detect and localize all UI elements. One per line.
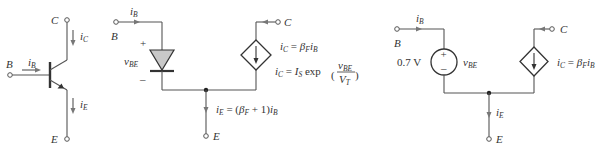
- emitter-terminal: [487, 137, 492, 142]
- ic-arrow-icon: [539, 27, 545, 32]
- collector-terminal: [65, 18, 70, 23]
- emitter-terminal: [65, 137, 70, 142]
- exp-right-paren: ): [355, 69, 359, 82]
- ic-exp-equation: iC = IS exp: [275, 65, 321, 79]
- vbe-label: vBE: [124, 55, 138, 69]
- base-terminal: [8, 73, 13, 78]
- base-label: B: [394, 37, 401, 49]
- ie-arrow-icon: [71, 108, 76, 114]
- collector-lead: [50, 60, 67, 70]
- transistor-symbol: C B E iB iC iE: [6, 14, 89, 145]
- ib-label: iB: [416, 12, 424, 26]
- ie-arrow-icon: [487, 112, 492, 118]
- ib-arrow-icon: [416, 27, 422, 32]
- bjt-models-diagram: C B E iB iC iE iB B + vBE – E: [0, 0, 601, 154]
- diode-model: iB B + vBE – E iE = (βF + 1)iB C iC = βF…: [111, 5, 359, 142]
- ic-arrow-icon: [71, 40, 76, 46]
- vbe-label: vBE: [463, 56, 477, 70]
- constant-voltage-model: iB B + – 0.7 V vBE iE E C iC = βFiB: [394, 12, 595, 145]
- ic-arrow-icon: [262, 20, 268, 25]
- emitter-label: E: [495, 133, 503, 145]
- ic-label: iC: [80, 30, 89, 44]
- exp-left-paren: (: [331, 69, 335, 82]
- ic-beta-equation: iC = βFiB: [280, 40, 318, 54]
- ie-label: iE: [496, 106, 504, 120]
- ib-label: iB: [130, 5, 138, 19]
- emitter-label: E: [212, 130, 220, 142]
- diode-icon: [150, 50, 174, 70]
- emitter-arrow-icon: [58, 84, 65, 89]
- base-label: B: [6, 58, 13, 70]
- vsource-minus: –: [440, 62, 447, 74]
- ib-arrow-icon: [134, 20, 140, 25]
- collector-label: C: [284, 16, 292, 28]
- ic-beta-equation: iC = βFiB: [557, 56, 595, 70]
- base-label: B: [111, 30, 118, 42]
- collector-label: C: [51, 14, 59, 26]
- vbe-minus: –: [139, 73, 146, 85]
- emitter-terminal: [204, 134, 209, 139]
- vsource-plus: +: [441, 48, 447, 60]
- base-terminal: [395, 27, 400, 32]
- collector-terminal: [550, 27, 555, 32]
- ib-label: iB: [28, 56, 36, 70]
- collector-label: C: [560, 23, 568, 35]
- ie-equation: iE = (βF + 1)iB: [216, 103, 278, 117]
- ib-arrow-icon: [35, 68, 41, 73]
- emitter-label: E: [50, 133, 58, 145]
- vbe-plus: +: [140, 37, 146, 49]
- collector-terminal: [276, 20, 281, 25]
- exp-numerator: vBE: [338, 59, 352, 73]
- ie-arrow-icon: [204, 107, 209, 113]
- exp-denominator: VT: [339, 73, 351, 87]
- source-value-label: 0.7 V: [397, 56, 421, 68]
- ie-label: iE: [80, 98, 88, 112]
- base-terminal: [114, 20, 119, 25]
